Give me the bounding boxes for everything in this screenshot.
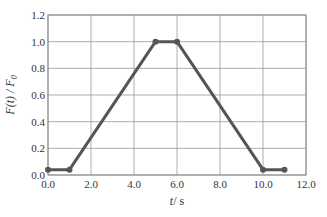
data-point-marker — [45, 167, 51, 173]
y-tick-label: 1.0 — [31, 36, 45, 48]
force-time-chart: 0.02.04.06.08.010.012.0 0.00.20.40.60.81… — [0, 0, 327, 217]
y-axis-ticks: 0.00.20.40.60.81.01.2 — [31, 9, 45, 181]
data-point-marker — [153, 39, 159, 45]
x-tick-label: 4.0 — [127, 178, 141, 190]
data-point-marker — [282, 167, 288, 173]
y-tick-label: 1.2 — [31, 9, 45, 21]
x-axis-label: t/ s — [170, 194, 185, 208]
y-tick-label: 0.2 — [31, 142, 45, 154]
x-tick-label: 2.0 — [84, 178, 98, 190]
x-tick-label: 8.0 — [213, 178, 227, 190]
y-axis-label: F(t) / F0 — [3, 75, 19, 115]
y-tick-label: 0.8 — [31, 62, 45, 74]
data-point-marker — [174, 39, 180, 45]
x-axis-ticks: 0.02.04.06.08.010.012.0 — [41, 178, 316, 190]
y-tick-label: 0.0 — [31, 169, 45, 181]
data-series — [45, 39, 288, 173]
x-tick-label: 12.0 — [296, 178, 316, 190]
x-tick-label: 10.0 — [253, 178, 273, 190]
data-point-marker — [260, 167, 266, 173]
x-tick-label: 6.0 — [170, 178, 184, 190]
data-point-marker — [67, 167, 73, 173]
y-tick-label: 0.4 — [31, 116, 45, 128]
y-tick-label: 0.6 — [31, 89, 45, 101]
series-line — [48, 42, 285, 170]
